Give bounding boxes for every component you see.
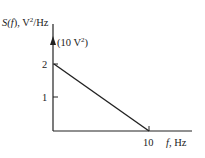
arrow-up-icon [50, 36, 56, 45]
psd-chart: S(f), V2/Hz (10 V2) 2 1 10 f, Hz [0, 0, 205, 158]
y-axis-label: S(f), V2/Hz [2, 16, 49, 29]
y-tick-label-2: 2 [42, 59, 47, 70]
x-axis-label: f, Hz [166, 137, 187, 148]
arrow-annotation: (10 V2) [57, 36, 89, 49]
y-tick-label-1: 1 [42, 92, 47, 103]
x-tick-label-10: 10 [143, 137, 154, 148]
psd-line [54, 64, 149, 131]
